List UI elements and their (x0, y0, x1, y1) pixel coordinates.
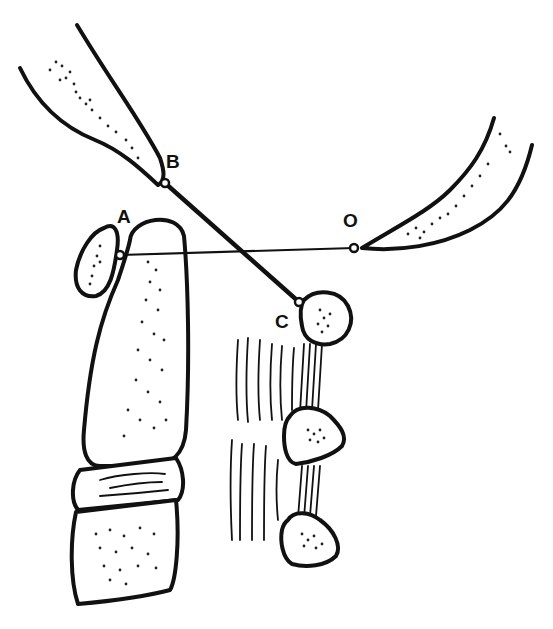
label-c: C (275, 311, 289, 332)
label-o: O (343, 210, 358, 231)
rounded-bone-c (301, 292, 351, 344)
point-b-marker (161, 179, 169, 187)
upper-right-bone (362, 118, 532, 249)
upper-left-bone (20, 25, 164, 185)
label-b: B (166, 151, 180, 172)
small-oval-bone (76, 226, 118, 296)
point-a-marker (116, 251, 124, 259)
point-o-marker (350, 244, 358, 252)
lower-vertebral-body (72, 500, 178, 604)
middle-triangular-bone (284, 408, 344, 464)
diagram-canvas: A B C O (0, 0, 553, 629)
point-c-marker (295, 298, 303, 306)
label-a: A (117, 206, 131, 227)
lower-triangular-bone (281, 513, 338, 566)
